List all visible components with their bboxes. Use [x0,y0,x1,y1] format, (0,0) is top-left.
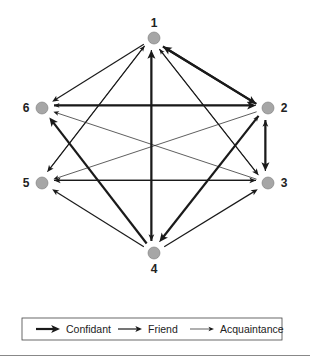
legend: ConfidantFriendAcquaintance [22,318,284,340]
legend-label: Confidant [66,323,111,335]
node-1: 1 [148,16,160,44]
edge-line [56,44,144,99]
node-circle [148,32,160,44]
edge-line [159,49,256,172]
edge-4-to-5-friend [52,189,144,246]
edge-5-to-3-friend [54,177,256,183]
node-3: 3 [262,176,288,190]
edges-layer [47,44,269,246]
node-circle [36,102,48,114]
node-5: 5 [23,176,48,190]
node-label: 5 [23,176,30,190]
node-label: 1 [151,16,158,30]
node-circle [262,102,274,114]
node-label: 6 [23,101,30,115]
edge-line [56,191,144,246]
arrowhead-icon [52,189,59,195]
edge-2-to-4-confidant [159,116,258,242]
node-circle [262,177,274,189]
edge-2-to-6-acquaintance [54,103,256,108]
edge-line [57,113,257,179]
edge-1-to-4-friend [148,50,154,241]
node-label: 2 [281,101,288,115]
arrowhead-icon [47,165,53,172]
node-circle [148,247,160,259]
network-diagram: 123456 ConfidantFriendAcquaintance [0,0,310,360]
arrowhead-icon [251,189,258,195]
edge-line [163,116,259,238]
nodes-layer: 123456 [23,16,288,276]
node-label: 3 [281,176,288,190]
node-label: 4 [151,262,158,276]
edge-2-to-1-confidant [163,46,257,103]
node-4: 4 [148,247,160,276]
edge-1-to-6-friend [52,44,144,101]
bottom-divider [0,355,310,356]
arrowhead-icon [52,96,59,102]
edge-1-to-3-friend [159,49,258,175]
legend-label: Friend [148,323,178,335]
node-2: 2 [262,101,288,115]
edge-line [50,46,145,169]
node-6: 6 [23,101,48,115]
node-circle [36,177,48,189]
edge-line [53,122,147,244]
legend-items: ConfidantFriendAcquaintance [36,323,284,335]
edge-1-to-5-friend [47,46,144,172]
legend-label: Acquaintance [220,323,284,335]
